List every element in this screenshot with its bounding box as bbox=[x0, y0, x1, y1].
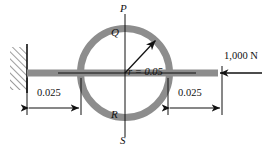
point-label-q: Q bbox=[111, 26, 119, 38]
dimension-right-label: 0.025 bbox=[178, 87, 202, 98]
figure-canvas: P Q R S r = 0.05 1,000 N 0.025 0.025 bbox=[0, 0, 274, 155]
radius-label: r = 0.05 bbox=[128, 66, 163, 77]
fixed-wall-support bbox=[10, 44, 27, 93]
point-label-s: S bbox=[120, 134, 126, 146]
point-label-r: R bbox=[111, 108, 118, 120]
force-label: 1,000 N bbox=[224, 50, 258, 61]
point-label-p: P bbox=[120, 2, 127, 14]
diagram-svg bbox=[0, 0, 274, 155]
dimension-left-label: 0.025 bbox=[37, 87, 61, 98]
